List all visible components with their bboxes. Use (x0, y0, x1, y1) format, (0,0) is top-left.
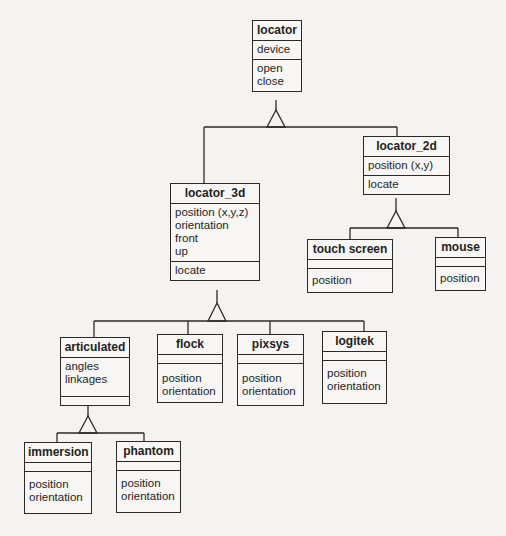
operation: locate (368, 178, 445, 191)
class-name: locator (253, 21, 301, 41)
operation: locate (175, 264, 255, 277)
class-name: logitek (323, 332, 386, 352)
operation: position (440, 272, 481, 285)
class-touch-screen: touch screen position (307, 239, 393, 293)
attribute: angles (65, 360, 125, 373)
operation: position (29, 478, 87, 491)
class-name: immersion (25, 443, 91, 463)
operations: position (436, 267, 485, 290)
operation: position (327, 367, 382, 380)
operation: orientation (162, 385, 218, 398)
attributes (117, 462, 180, 471)
operations: position orientation (25, 472, 91, 513)
operation: position (121, 477, 176, 490)
operations: position orientation (238, 364, 303, 405)
attributes (25, 463, 91, 472)
class-name: locator_3d (171, 184, 259, 204)
operations: position orientation (117, 471, 180, 512)
operation: close (257, 75, 297, 88)
operations: position (308, 269, 392, 292)
attributes: device (253, 41, 301, 60)
operations: position orientation (158, 364, 222, 402)
class-immersion: immersion position orientation (24, 442, 92, 514)
operation: position (162, 372, 218, 385)
operation: orientation (121, 490, 176, 503)
attribute: front (175, 232, 255, 245)
attributes (158, 355, 222, 364)
attribute: position (x,y) (368, 159, 445, 172)
operations: locate (364, 176, 449, 194)
attribute: linkages (65, 373, 125, 386)
class-name: flock (158, 335, 222, 355)
attributes: angles linkages (61, 358, 129, 397)
operation: position (312, 274, 388, 287)
operation: orientation (242, 385, 299, 398)
operation: orientation (29, 491, 87, 504)
attributes: position (x,y,z) orientation front up (171, 204, 259, 262)
attribute: position (x,y,z) (175, 206, 255, 219)
class-name: touch screen (308, 240, 392, 260)
attributes (238, 355, 303, 364)
class-phantom: phantom position orientation (116, 441, 181, 513)
class-mouse: mouse position (435, 237, 486, 291)
attributes: position (x,y) (364, 157, 449, 176)
operations: locate (171, 262, 259, 280)
attributes (323, 352, 386, 361)
class-name: pixsys (238, 335, 303, 355)
attribute: device (257, 43, 297, 56)
attribute: up (175, 245, 255, 258)
operations: position orientation (323, 361, 386, 403)
class-logitek: logitek position orientation (322, 331, 387, 404)
operation: open (257, 62, 297, 75)
class-locator-3d: locator_3d position (x,y,z) orientation … (170, 183, 260, 281)
class-locator-2d: locator_2d position (x,y) locate (363, 136, 450, 195)
class-name: mouse (436, 238, 485, 258)
attributes (436, 258, 485, 267)
class-name: articulated (61, 338, 129, 358)
operations: open close (253, 60, 301, 91)
operations (61, 397, 129, 405)
class-locator: locator device open close (252, 20, 302, 92)
operation: orientation (327, 380, 382, 393)
attributes (308, 260, 392, 269)
class-flock: flock position orientation (157, 334, 223, 403)
class-name: phantom (117, 442, 180, 462)
operation: position (242, 372, 299, 385)
class-articulated: articulated angles linkages (60, 337, 130, 406)
class-pixsys: pixsys position orientation (237, 334, 304, 406)
attribute: orientation (175, 219, 255, 232)
class-name: locator_2d (364, 137, 449, 157)
